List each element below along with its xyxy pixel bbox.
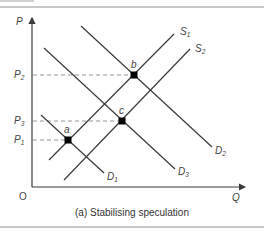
equilibrium-point-c (119, 118, 126, 125)
point-label-c: c (119, 105, 124, 116)
curve-label-d2: D2 (215, 145, 226, 157)
figure-caption: (a) Stabilising speculation (0, 207, 264, 218)
equilibrium-point-a (65, 137, 72, 144)
point-label-b: b (131, 59, 137, 70)
x-axis-label: Q (232, 192, 240, 203)
y-axis-label: P (16, 16, 23, 27)
demand-curve-d3 (44, 48, 175, 169)
demand-curve-d1 (41, 115, 104, 173)
bottom-border-rule (0, 226, 264, 228)
price-label-p1: P1 (14, 134, 25, 146)
curve-label-s2: S2 (195, 43, 206, 55)
curve-label-d3: D3 (178, 166, 189, 178)
curve-label-s1: S1 (180, 26, 191, 38)
equilibrium-points: abc (64, 59, 138, 144)
origin-label: O (19, 191, 27, 202)
supply-demand-diagram: D1D2D3S1S2 P Q O P2P3P1 abc (0, 0, 264, 231)
price-label-p3: P3 (14, 115, 25, 127)
demand-curve-d2 (81, 26, 212, 147)
price-label-p2: P2 (14, 69, 25, 81)
point-label-a: a (64, 124, 70, 135)
price-level-labels: P2P3P1 (14, 69, 25, 146)
curves: D1D2D3S1S2 (41, 26, 226, 183)
equilibrium-point-b (131, 72, 138, 79)
curve-label-d1: D1 (107, 171, 118, 183)
